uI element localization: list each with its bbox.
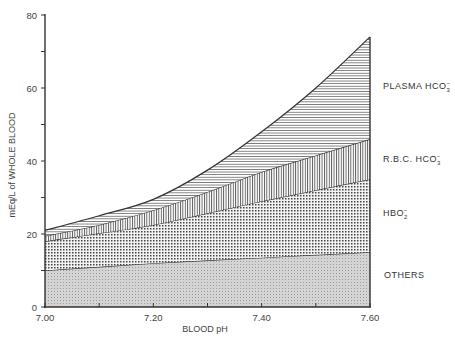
- label-plasma-hco3: PLASMA HCO3−: [383, 80, 450, 93]
- label-others: OTHERS: [384, 270, 425, 280]
- x-tick-label: 7.00: [36, 312, 55, 323]
- x-tick-label: 7.40: [252, 312, 271, 323]
- x-tick-label: 7.20: [144, 312, 163, 323]
- stacked-area-chart: 0204060807.007.207.407.60BLOOD pHmEq/L o…: [0, 0, 455, 346]
- y-tick-label: 80: [26, 10, 37, 21]
- y-tick-label: 0: [32, 302, 37, 313]
- y-tick-label: 20: [26, 229, 37, 240]
- x-axis-label: BLOOD pH: [182, 324, 228, 334]
- y-tick-label: 60: [26, 83, 37, 94]
- y-axis-label: mEq/L of WHOLE BLOOD: [7, 112, 17, 218]
- label-rbc-hco3: R.B.C. HCO3−: [383, 153, 441, 166]
- x-tick-label: 7.60: [361, 312, 380, 323]
- label-hbo2: HBO2−: [383, 207, 408, 220]
- y-tick-label: 40: [26, 156, 37, 167]
